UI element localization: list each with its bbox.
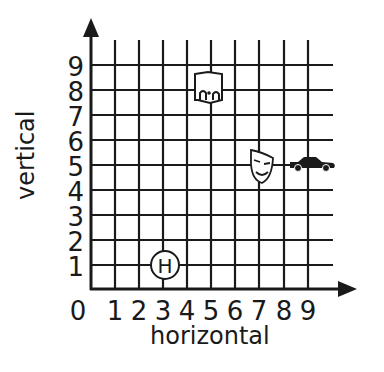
x-tick-3: 3	[153, 298, 173, 324]
x-tick-5: 5	[201, 298, 221, 324]
hospital-h-icon: H	[151, 251, 179, 279]
theater-mask-icon	[251, 150, 273, 183]
x-tick-1: 1	[105, 298, 125, 324]
x-tick-9: 9	[298, 298, 318, 324]
x-axis-arrow-icon	[338, 281, 357, 297]
car-icon	[290, 157, 335, 172]
y-axis-arrow-icon	[83, 18, 99, 37]
x-tick-0: 0	[68, 298, 88, 324]
x-tick-7: 7	[249, 298, 269, 324]
x-axis-title: horizontal	[150, 324, 270, 348]
y-tick-1: 1	[62, 254, 84, 280]
x-tick-6: 6	[225, 298, 245, 324]
x-tick-8: 8	[274, 298, 294, 324]
svg-text:H: H	[157, 254, 172, 278]
y-axis-title: vertical	[14, 111, 38, 200]
x-tick-2: 2	[129, 298, 149, 324]
x-tick-4: 4	[177, 298, 197, 324]
library-building-icon	[195, 72, 222, 103]
